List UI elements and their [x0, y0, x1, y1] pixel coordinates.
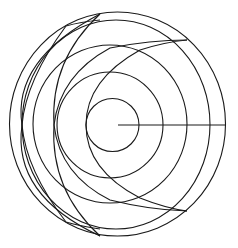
diagram-canvas	[0, 0, 238, 248]
lens-arc-mid-top-b	[54, 40, 187, 125]
lens-arc-mid-bottom-b	[54, 125, 187, 211]
circle-3	[33, 45, 187, 203]
nested-circles-diagram	[0, 0, 238, 248]
lens-arc-mid-top	[54, 14, 100, 125]
